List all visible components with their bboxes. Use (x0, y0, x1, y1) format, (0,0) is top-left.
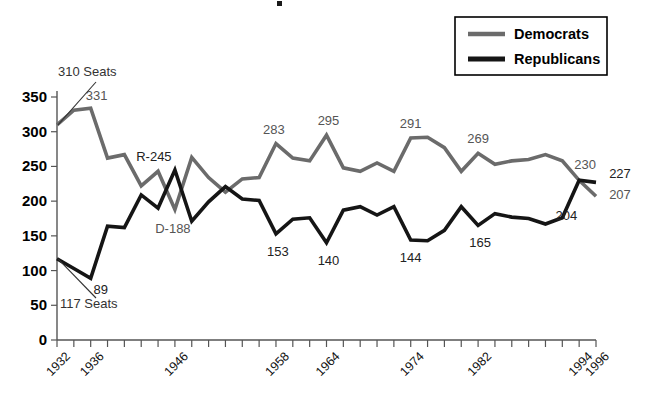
data-label: 269 (467, 131, 489, 146)
data-label: 165 (469, 235, 491, 250)
data-label: 144 (400, 250, 422, 265)
y-tick-label: 50 (30, 296, 47, 313)
y-tick-label: 150 (22, 227, 47, 244)
data-label: 207 (609, 187, 631, 202)
data-label: 291 (400, 116, 422, 131)
legend-label-republicans: Republicans (514, 51, 600, 67)
data-label: 153 (267, 244, 289, 259)
data-label: 283 (263, 122, 285, 137)
data-label: 204 (555, 208, 577, 223)
data-label: 140 (318, 253, 340, 268)
annotation-label: 117 Seats (60, 296, 118, 311)
data-label: R-245 (136, 149, 171, 164)
data-label: 230 (574, 157, 596, 172)
seats-line-chart: 050100150200250300350 193219361946195819… (0, 0, 648, 399)
data-label: 295 (318, 113, 340, 128)
y-tick-label: 100 (22, 262, 47, 279)
chart-container: 050100150200250300350 193219361946195819… (0, 0, 648, 399)
data-label: 227 (609, 166, 631, 181)
chart-legend: DemocratsRepublicans (455, 17, 607, 75)
y-tick-label: 200 (22, 192, 47, 209)
crop-mark-icon (277, 1, 282, 6)
y-tick-label: 300 (22, 123, 47, 140)
y-tick-label: 0 (39, 331, 47, 348)
y-tick-label: 250 (22, 157, 47, 174)
data-label: 89 (93, 282, 107, 297)
data-label: D-188 (155, 221, 190, 236)
legend-label-democrats: Democrats (514, 26, 589, 42)
y-tick-label: 350 (22, 88, 47, 105)
annotation-label: 310 Seats (58, 64, 117, 79)
